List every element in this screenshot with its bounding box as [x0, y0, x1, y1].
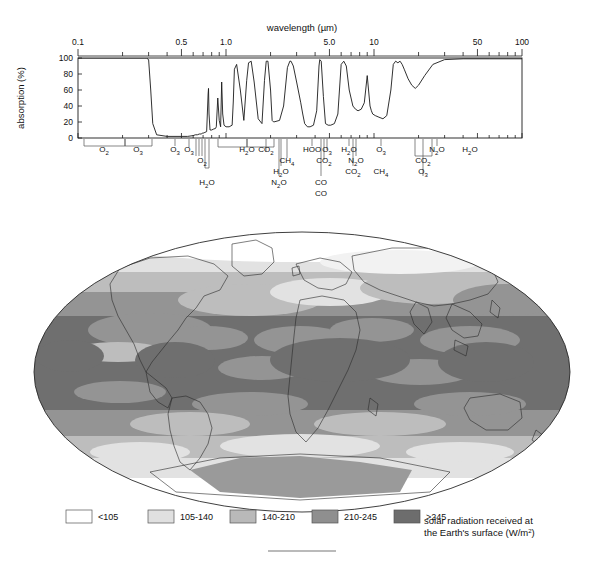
gas-label-row1: O2	[99, 145, 109, 156]
gas-label-row1: O3	[170, 145, 180, 156]
x-tick-label: 100	[515, 37, 529, 47]
legend-swatch	[394, 510, 420, 523]
gas-label-row1: CO2	[258, 145, 274, 156]
gas-label-row1: O3	[322, 145, 332, 156]
gas-label-row4: N2O	[271, 178, 286, 189]
legend-label: 210-245	[344, 512, 377, 522]
legend-label: 140-210	[262, 512, 295, 522]
gas-label-row1: HOO	[303, 145, 321, 154]
map-legend: <105105-140140-210210-245>245	[66, 510, 446, 523]
gas-label-row2: O2	[197, 156, 207, 167]
legend-caption-line2: the Earth's surface (W/m2)	[424, 527, 535, 538]
legend-swatch	[66, 510, 92, 523]
gas-label-row5: CO	[315, 189, 327, 198]
bottom-axis-ticks	[78, 133, 522, 138]
x-tick-label: 0.5	[176, 37, 188, 47]
y-axis-ticks	[78, 58, 82, 138]
absorption-chart: wavelength (µm) 0.10.51.05.01050100 abso…	[15, 22, 529, 198]
legend-swatch	[230, 510, 256, 523]
gas-species-labels: O2O3O3H2OCO2HOOO3H2OO3N2OH2OO3O2CH4CO2N2…	[99, 145, 477, 198]
legend-label: 105-140	[180, 512, 213, 522]
gas-label-row1: O3	[133, 145, 143, 156]
x-tick-label: 10	[369, 37, 379, 47]
x-tick-label: 0.1	[72, 37, 84, 47]
wavelength-axis-title: wavelength (µm)	[266, 22, 337, 33]
y-tick-label: 0	[68, 133, 73, 143]
gas-label-row3: CH4	[374, 167, 390, 178]
gas-label-row1: O3	[376, 145, 386, 156]
gas-label-row2: CO2	[415, 156, 431, 167]
x-tick-label: 1.0	[220, 37, 232, 47]
y-tick-label: 100	[59, 53, 73, 63]
top-axis-ticks	[78, 49, 522, 56]
gas-label-row4: CO	[315, 178, 327, 187]
y-tick-label: 60	[64, 85, 74, 95]
gas-label-row2: N2O	[348, 156, 363, 167]
gas-label-row3: H2O	[273, 167, 288, 178]
absorption-curve	[78, 58, 522, 136]
gas-label-row1: H2O	[462, 145, 477, 156]
y-tick-label: 80	[64, 69, 74, 79]
legend-label: <105	[98, 512, 118, 522]
absorption-axis-label: absorption (%)	[15, 67, 26, 129]
legend-swatch	[312, 510, 338, 523]
gas-label-row2: CO2	[316, 156, 332, 167]
gas-label-row2: CH4	[280, 156, 296, 167]
gas-label-row3: O3	[418, 167, 428, 178]
y-tick-label: 20	[64, 117, 74, 127]
gas-label-row1: O3	[184, 145, 194, 156]
top-axis-tick-labels: 0.10.51.05.01050100	[72, 37, 529, 47]
gas-label-row1: N2O	[429, 145, 444, 156]
gas-label-row4: H2O	[199, 178, 214, 189]
x-tick-label: 50	[473, 37, 483, 47]
figure-canvas: wavelength (µm) 0.10.51.05.01050100 abso…	[0, 0, 604, 568]
figure-root: wavelength (µm) 0.10.51.05.01050100 abso…	[0, 0, 604, 568]
legend-swatch	[148, 510, 174, 523]
y-axis-tick-labels: 020406080100	[59, 53, 73, 143]
legend-caption-line1: solar radiation received at	[424, 515, 533, 526]
x-tick-label: 5.0	[324, 37, 336, 47]
gas-label-row3: CO2	[345, 167, 361, 178]
world-map	[34, 230, 570, 512]
gas-label-row1: H2O	[341, 145, 356, 156]
y-tick-label: 40	[64, 101, 74, 111]
